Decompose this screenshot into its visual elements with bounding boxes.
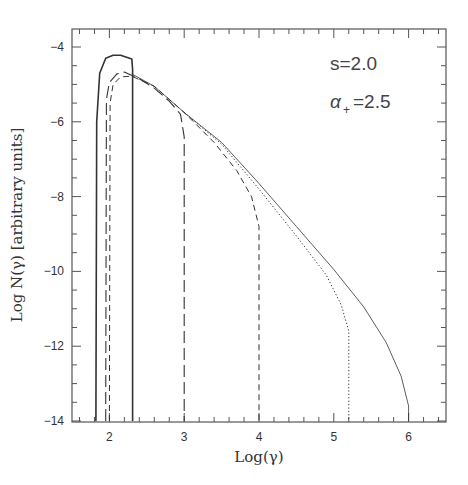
y-tick-label: −10: [44, 264, 65, 278]
svg-text:α: α: [330, 91, 342, 112]
x-tick-label: 6: [405, 430, 412, 444]
y-tick-label: −12: [44, 339, 65, 353]
x-tick-labels: 23456: [106, 430, 412, 444]
series-line: [184, 113, 349, 422]
x-tick-label: 2: [106, 430, 113, 444]
y-axis-title: Log N(γ) [arbitrary units]: [8, 128, 26, 323]
y-tick-label: −14: [44, 414, 65, 428]
x-tick-label: 4: [256, 430, 263, 444]
y-tick-label: −4: [50, 40, 64, 54]
x-axis-title: Log(γ): [234, 448, 283, 466]
x-tick-label: 5: [330, 430, 337, 444]
series-line: [132, 74, 409, 421]
y-tick-label: −8: [50, 190, 64, 204]
series-line: [96, 55, 133, 421]
annotation-alpha: α + =2.5: [330, 91, 391, 117]
y-tick-labels: −4−6−8−10−12−14: [44, 40, 65, 428]
svg-text:+: +: [343, 103, 350, 117]
svg-text:=2.5: =2.5: [353, 91, 391, 112]
annotation-s: s=2.0: [330, 53, 377, 74]
x-tick-label: 3: [181, 430, 188, 444]
series-line: [106, 72, 185, 421]
chart: 23456 −4−6−8−10−12−14 Log(γ) Log N(γ) [a…: [0, 0, 468, 485]
y-tick-label: −6: [50, 115, 64, 129]
